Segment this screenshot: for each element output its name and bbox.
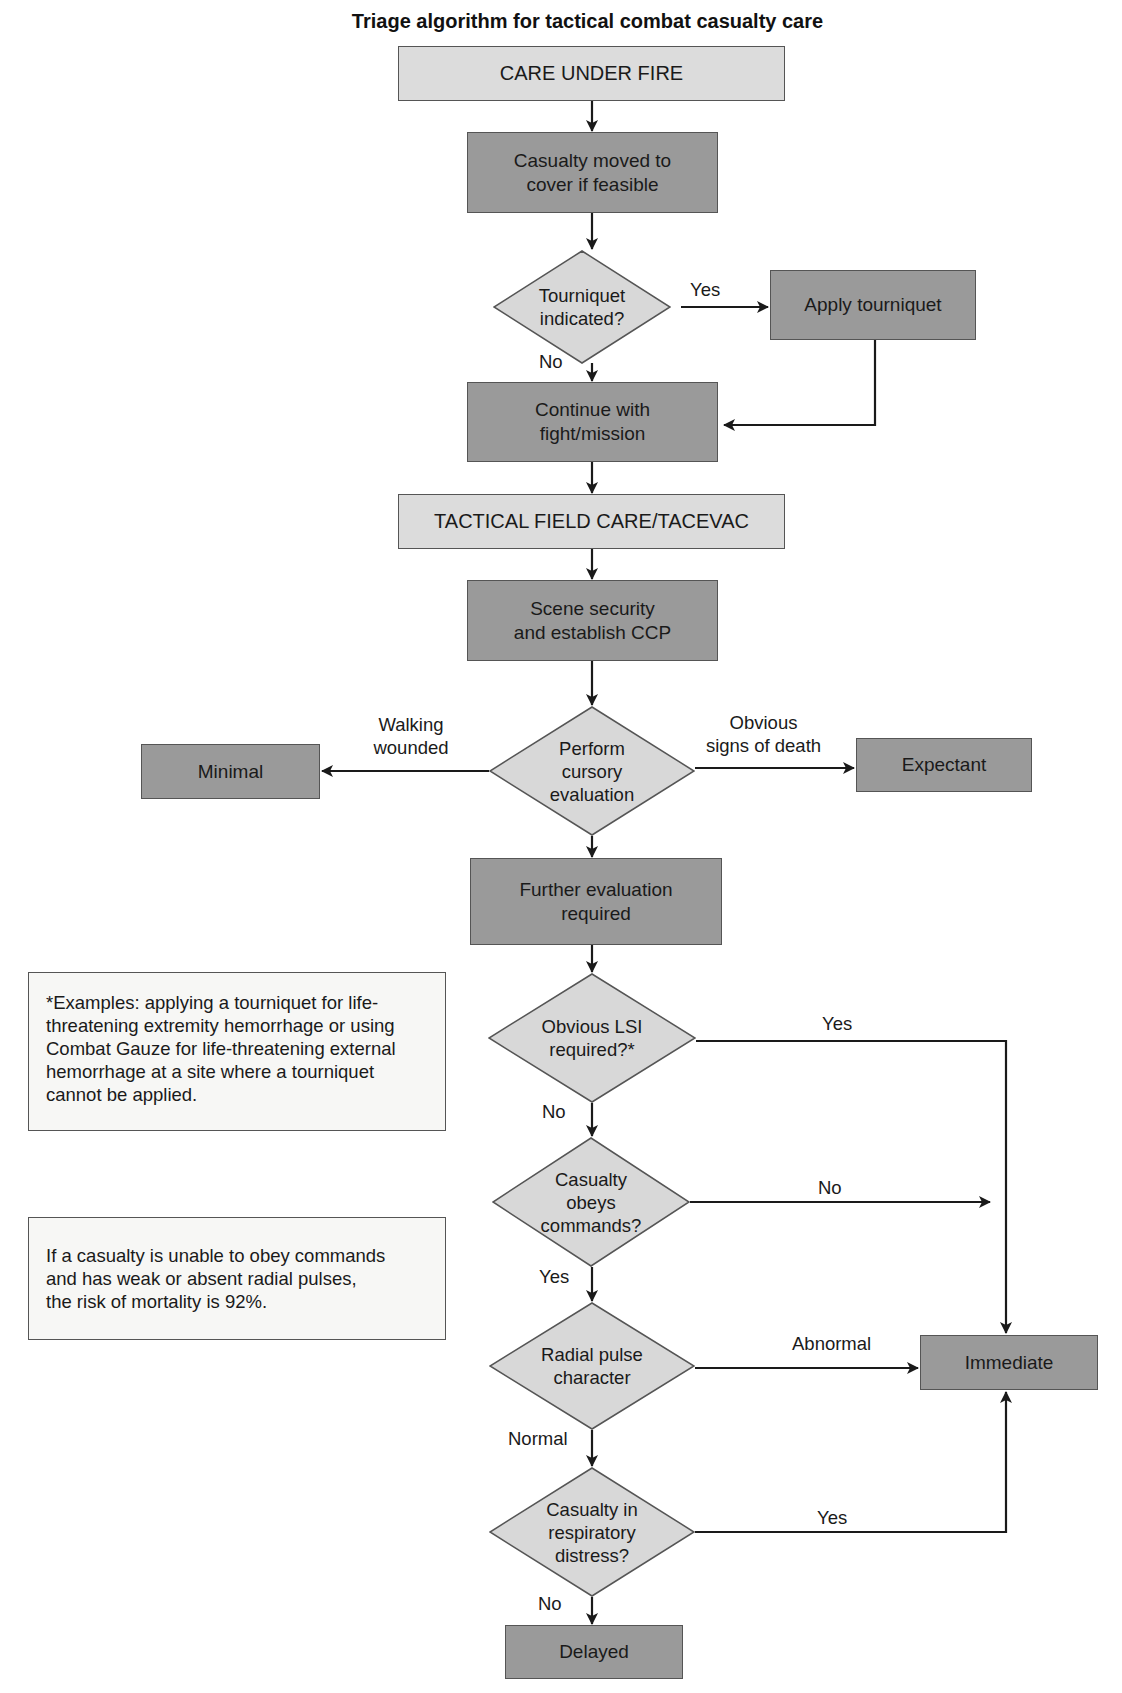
edge-label-walking-wounded: Walking wounded [366,713,456,759]
edge-label-lsi-no: No [542,1100,566,1123]
decision-obeys-commands: Casualty obeys commands? [492,1137,690,1267]
decision-label: Perform cursory evaluation [489,706,695,836]
step-label: Apply tourniquet [804,293,941,317]
edge-label-tourniquet-no: No [539,350,563,373]
step-continue-fight: Continue with fight/mission [467,382,718,462]
decision-radial-pulse: Radial pulse character [489,1302,695,1430]
phase-tactical-field-care: TACTICAL FIELD CARE/TACEVAC [398,494,785,549]
edge-label-resp-no: No [538,1592,562,1615]
outcome-immediate: Immediate [920,1335,1098,1390]
outcome-expectant: Expectant [856,738,1032,792]
arrow-lsi-yes [696,1041,1006,1333]
phase-care-under-fire: CARE UNDER FIRE [398,46,785,101]
edge-label-resp-yes: Yes [817,1506,847,1529]
phase-label: TACTICAL FIELD CARE/TACEVAC [434,510,749,533]
decision-respiratory-distress: Casualty in respiratory distress? [489,1467,695,1597]
step-apply-tourniquet: Apply tourniquet [770,270,976,340]
outcome-label: Minimal [198,760,263,784]
decision-label: Tourniquet indicated? [493,250,671,364]
edge-label-tourniquet-yes: Yes [690,278,720,301]
decision-cursory-evaluation: Perform cursory evaluation [489,706,695,836]
step-label: Scene security and establish CCP [514,597,671,645]
edge-label-obeys-no: No [818,1176,842,1199]
decision-label: Casualty obeys commands? [492,1137,690,1267]
step-scene-security: Scene security and establish CCP [467,580,718,661]
step-label: Further evaluation required [519,878,672,926]
step-further-evaluation: Further evaluation required [470,858,722,945]
outcome-label: Delayed [559,1640,629,1664]
edge-label-lsi-yes: Yes [822,1012,852,1035]
outcome-minimal: Minimal [141,744,320,799]
step-label: Casualty moved to cover if feasible [514,149,671,197]
edge-label-pulse-abnormal: Abnormal [792,1332,871,1355]
note-lsi-examples: *Examples: applying a tourniquet for lif… [28,972,446,1131]
decision-label: Obvious LSI required?* [488,973,696,1103]
edge-label-obeys-yes: Yes [539,1265,569,1288]
arrow-resp-yes [695,1392,1006,1532]
phase-label: CARE UNDER FIRE [500,62,683,85]
decision-label: Casualty in respiratory distress? [489,1467,695,1597]
step-casualty-moved: Casualty moved to cover if feasible [467,132,718,213]
edge-label-pulse-normal: Normal [508,1427,568,1450]
decision-label: Radial pulse character [489,1302,695,1430]
decision-tourniquet-indicated: Tourniquet indicated? [493,250,671,364]
outcome-label: Expectant [902,753,987,777]
outcome-delayed: Delayed [505,1625,683,1679]
decision-lsi-required: Obvious LSI required?* [488,973,696,1103]
arrow-apply-to-continue [724,340,875,425]
edge-label-signs-of-death: Obvious signs of death [696,711,831,757]
outcome-label: Immediate [965,1351,1054,1375]
note-mortality-risk: If a casualty is unable to obey commands… [28,1217,446,1340]
step-label: Continue with fight/mission [535,398,650,446]
